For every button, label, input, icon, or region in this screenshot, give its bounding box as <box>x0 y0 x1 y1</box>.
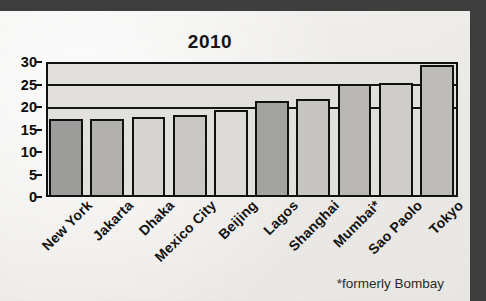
y-tick-label: 30 <box>21 55 37 70</box>
bar <box>379 83 413 195</box>
paper-page: 2010 051015202530 New YorkJakartaDhakaMe… <box>0 11 470 301</box>
y-tick-mark <box>36 174 42 176</box>
y-tick-mark <box>36 129 42 131</box>
x-tick-label: Jakarta <box>89 197 136 244</box>
x-tick-label: Beijing <box>215 197 260 242</box>
plot-frame <box>46 62 458 197</box>
plot-area <box>46 62 458 197</box>
y-axis: 051015202530 <box>0 62 42 197</box>
bar <box>338 84 372 195</box>
footnote: *formerly Bombay <box>337 276 444 291</box>
y-tick-mark <box>36 84 42 86</box>
y-tick-mark <box>36 151 42 153</box>
y-tick-mark <box>36 196 42 198</box>
y-tick-label: 15 <box>21 122 37 137</box>
y-tick-label: 25 <box>21 77 37 92</box>
bar <box>214 110 248 196</box>
bar <box>49 119 83 196</box>
bar <box>132 117 166 195</box>
y-tick-label: 20 <box>21 100 37 115</box>
scan-frame: 2010 051015202530 New YorkJakartaDhakaMe… <box>0 0 486 301</box>
chart-title: 2010 <box>0 31 420 53</box>
y-tick-mark <box>36 61 42 63</box>
bar <box>255 101 289 196</box>
y-tick-label: 10 <box>21 145 37 160</box>
bar <box>173 115 207 195</box>
x-tick-label: New York <box>39 197 96 254</box>
x-tick-label: Tokyo <box>426 197 466 237</box>
bar <box>296 99 330 195</box>
y-tick-mark <box>36 106 42 108</box>
bar <box>420 65 454 195</box>
bar <box>90 119 124 196</box>
